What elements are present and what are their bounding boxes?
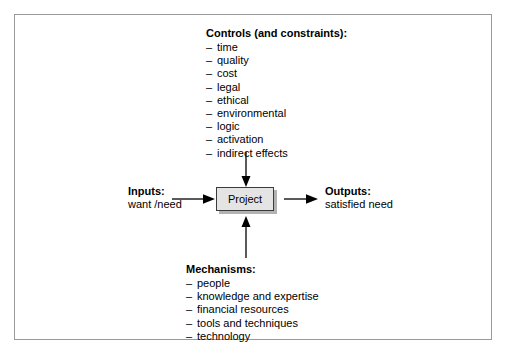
bullet-dash: – bbox=[206, 120, 217, 133]
list-item-label: quality bbox=[217, 54, 249, 66]
list-item-label: financial resources bbox=[197, 303, 289, 315]
list-item: –indirect effects bbox=[206, 147, 347, 160]
list-item-label: indirect effects bbox=[217, 147, 288, 159]
list-item-label: time bbox=[217, 41, 238, 53]
list-item-label: activation bbox=[217, 133, 263, 145]
list-item: –technology bbox=[186, 330, 319, 343]
bullet-dash: – bbox=[186, 277, 197, 290]
list-item: –cost bbox=[206, 67, 347, 80]
bullet-dash: – bbox=[206, 107, 217, 120]
list-item: –ethical bbox=[206, 94, 347, 107]
inputs-block: Inputs: want /need bbox=[128, 185, 182, 211]
list-item-label: knowledge and expertise bbox=[197, 290, 319, 302]
list-item-label: people bbox=[197, 277, 230, 289]
list-item: –legal bbox=[206, 81, 347, 94]
mechanisms-block: Mechanisms: –people –knowledge and exper… bbox=[186, 263, 319, 343]
list-item: –quality bbox=[206, 54, 347, 67]
list-item: –financial resources bbox=[186, 303, 319, 316]
bullet-dash: – bbox=[186, 290, 197, 303]
bullet-dash: – bbox=[206, 94, 217, 107]
outputs-value: satisfied need bbox=[325, 198, 393, 211]
controls-heading: Controls (and constraints): bbox=[206, 27, 347, 40]
diagram-canvas: Controls (and constraints): –time –quali… bbox=[0, 0, 508, 357]
list-item-label: logic bbox=[217, 120, 240, 132]
bullet-dash: – bbox=[206, 54, 217, 67]
list-item: –activation bbox=[206, 133, 347, 146]
list-item-label: tools and techniques bbox=[197, 317, 298, 329]
list-item: –environmental bbox=[206, 107, 347, 120]
outputs-block: Outputs: satisfied need bbox=[325, 185, 393, 211]
controls-block: Controls (and constraints): –time –quali… bbox=[206, 27, 347, 160]
bullet-dash: – bbox=[206, 147, 217, 160]
list-item: –people bbox=[186, 277, 319, 290]
bullet-dash: – bbox=[186, 317, 197, 330]
list-item: –logic bbox=[206, 120, 347, 133]
list-item: –knowledge and expertise bbox=[186, 290, 319, 303]
bullet-dash: – bbox=[186, 330, 197, 343]
list-item: –time bbox=[206, 41, 347, 54]
bullet-dash: – bbox=[206, 41, 217, 54]
project-label: Project bbox=[228, 193, 262, 205]
project-process-box: Project bbox=[216, 187, 274, 211]
list-item-label: technology bbox=[197, 330, 250, 342]
bullet-dash: – bbox=[206, 81, 217, 94]
controls-list: –time –quality –cost –legal –ethical –en… bbox=[206, 41, 347, 160]
mechanisms-list: –people –knowledge and expertise –financ… bbox=[186, 277, 319, 343]
bullet-dash: – bbox=[186, 303, 197, 316]
bullet-dash: – bbox=[206, 133, 217, 146]
list-item-label: environmental bbox=[217, 107, 286, 119]
mechanisms-heading: Mechanisms: bbox=[186, 263, 319, 276]
list-item: –tools and techniques bbox=[186, 317, 319, 330]
inputs-heading: Inputs: bbox=[128, 185, 182, 198]
list-item-label: cost bbox=[217, 67, 237, 79]
bullet-dash: – bbox=[206, 67, 217, 80]
outputs-heading: Outputs: bbox=[325, 185, 393, 198]
list-item-label: legal bbox=[217, 81, 240, 93]
list-item-label: ethical bbox=[217, 94, 249, 106]
inputs-value: want /need bbox=[128, 198, 182, 211]
